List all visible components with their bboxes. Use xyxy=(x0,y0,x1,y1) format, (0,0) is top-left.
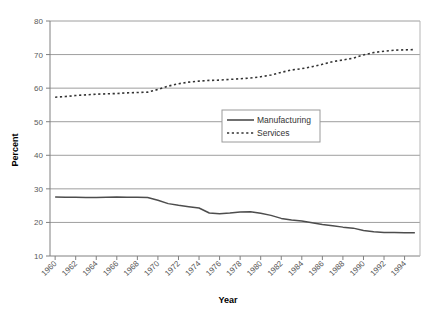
x-tick-label: 1984 xyxy=(286,259,305,278)
x-tick-label: 1962 xyxy=(60,259,79,278)
x-tick-label: 1990 xyxy=(348,259,367,278)
x-tick-label: 1980 xyxy=(245,259,264,278)
x-tick-label: 1972 xyxy=(163,259,182,278)
y-tick-label: 40 xyxy=(34,151,43,160)
x-tick-label: 1974 xyxy=(183,259,202,278)
y-tick-label: 80 xyxy=(34,17,43,26)
legend-label-services: Services xyxy=(257,128,290,138)
x-tick-label: 1970 xyxy=(142,259,161,278)
x-tick-label: 1982 xyxy=(266,259,285,278)
x-tick-label: 1976 xyxy=(204,259,223,278)
x-tick-label: 1960 xyxy=(40,259,59,278)
line-chart: 1020304050607080 19601962196419661968197… xyxy=(0,0,442,318)
x-axis-title: Year xyxy=(218,295,238,305)
legend-label-manufacturing: Manufacturing xyxy=(257,115,311,125)
chart-container: 1020304050607080 19601962196419661968197… xyxy=(0,0,442,318)
y-tick-label: 50 xyxy=(34,118,43,127)
x-tick-label: 1966 xyxy=(101,259,120,278)
chart-legend: Manufacturing Services xyxy=(222,110,320,142)
y-tick-label: 10 xyxy=(34,252,43,261)
x-tick-label: 1968 xyxy=(122,259,141,278)
y-axis-title: Percent xyxy=(10,133,20,166)
x-tick-label: 1986 xyxy=(307,259,326,278)
x-tick-label: 1978 xyxy=(225,259,244,278)
y-tick-label: 60 xyxy=(34,84,43,93)
x-tick-label: 1992 xyxy=(368,259,387,278)
y-tick-label: 20 xyxy=(34,218,43,227)
x-tick-label: 1988 xyxy=(327,259,346,278)
x-tick-label: 1994 xyxy=(389,259,408,278)
x-axis-ticks: 1960196219641966196819701972197419761978… xyxy=(40,256,409,278)
y-tick-label: 70 xyxy=(34,51,43,60)
x-tick-label: 1964 xyxy=(81,259,100,278)
y-tick-label: 30 xyxy=(34,185,43,194)
y-axis-ticks: 1020304050607080 xyxy=(34,17,50,261)
